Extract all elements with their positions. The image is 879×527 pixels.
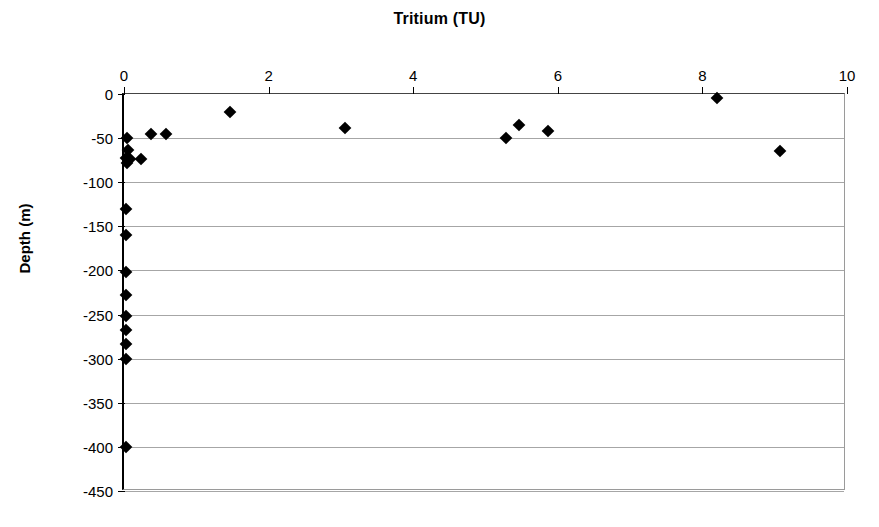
data-point-marker (121, 132, 134, 145)
x-axis-tick-label: 2 (264, 67, 272, 84)
y-axis-tick-label: -150 (83, 218, 113, 235)
y-axis-tick (118, 403, 125, 404)
gridline-y (124, 359, 844, 360)
gridline-y (124, 315, 844, 316)
y-axis-tick (118, 491, 125, 492)
gridline-y (124, 270, 844, 271)
data-point-marker (499, 132, 512, 145)
x-axis-tick (847, 87, 848, 94)
data-point-marker (773, 145, 786, 158)
x-axis-tick (413, 87, 414, 94)
y-axis-tick (118, 226, 125, 227)
tritium-depth-scatter-chart: Tritium (TU) Depth (m) 0-50-100-150-200-… (0, 0, 879, 527)
x-axis-tick-label: 6 (554, 67, 562, 84)
y-axis-tick-label: -50 (91, 130, 113, 147)
data-point-marker (120, 323, 133, 336)
gridline-y (124, 403, 844, 404)
x-axis-tick (702, 87, 703, 94)
data-point-marker (120, 266, 133, 279)
data-point-marker (710, 92, 723, 105)
y-axis-tick-label: -200 (83, 262, 113, 279)
y-axis-tick-label: -250 (83, 306, 113, 323)
x-axis-tick-label: 8 (698, 67, 706, 84)
data-point-marker (513, 119, 526, 132)
gridline-y (124, 138, 844, 139)
y-axis-tick-label: -100 (83, 174, 113, 191)
gridline-y (124, 491, 844, 492)
x-axis-tick (558, 87, 559, 94)
y-axis-tick-label: -400 (83, 438, 113, 455)
y-axis-tick-label: -350 (83, 394, 113, 411)
gridline-y (124, 182, 844, 183)
data-point-marker (224, 105, 237, 118)
x-axis-tick (269, 87, 270, 94)
data-point-marker (120, 441, 133, 454)
data-point-marker (120, 202, 133, 215)
x-axis-tick-label: 10 (839, 67, 856, 84)
data-point-marker (120, 229, 133, 242)
data-point-marker (120, 337, 133, 350)
data-point-marker (134, 153, 147, 166)
data-point-marker (120, 310, 133, 323)
x-axis-tick-label: 0 (120, 67, 128, 84)
y-axis-title: Depth (m) (16, 159, 33, 319)
x-axis-tick-label: 4 (409, 67, 417, 84)
y-axis-tick (118, 182, 125, 183)
plot-area: 0-50-100-150-200-250-300-350-400-450 024… (122, 93, 845, 490)
y-axis-tick-label: -300 (83, 350, 113, 367)
chart-title: Tritium (TU) (0, 10, 879, 28)
data-point-marker (542, 125, 555, 138)
y-axis-tick (118, 94, 125, 95)
gridline-y (124, 447, 844, 448)
data-point-marker (339, 122, 352, 135)
gridline-y (124, 226, 844, 227)
data-point-marker (120, 289, 133, 302)
data-point-marker (120, 352, 133, 365)
x-axis-tick (124, 87, 125, 94)
y-axis-tick-label: 0 (105, 86, 113, 103)
y-axis-tick-label: -450 (83, 483, 113, 500)
